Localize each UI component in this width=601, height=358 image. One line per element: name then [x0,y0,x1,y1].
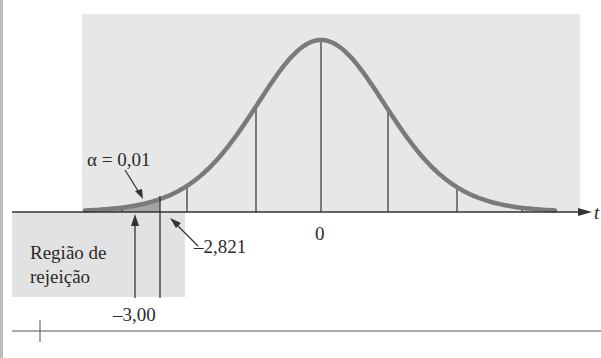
t-distribution-chart [0,0,601,358]
test-statistic-label: –3,00 [113,305,156,324]
rejection-region-label-1: Região de [30,243,107,262]
rejection-region-label-2: rejeição [30,267,90,286]
zero-label: 0 [315,224,325,243]
t-axis-label: t [594,203,599,222]
critical-value-label: –2,821 [194,237,246,256]
axis-arrow-icon [578,208,592,216]
alpha-label: α = 0,01 [87,150,150,169]
